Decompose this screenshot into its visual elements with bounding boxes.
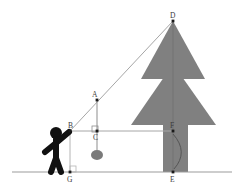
label-E: E [170, 175, 175, 184]
label-C: C [93, 133, 98, 142]
observer-body [45, 132, 69, 172]
point-marker-B [69, 130, 72, 133]
diagram-canvas: D A B C F G E [0, 0, 247, 194]
tree-graphic [131, 21, 216, 172]
point-marker-E [172, 171, 175, 174]
point-marker-D [172, 20, 175, 23]
label-A: A [92, 90, 98, 99]
point-marker-F [172, 130, 175, 133]
label-G: G [67, 175, 73, 184]
point-marker-A [96, 99, 99, 102]
observer-figure [45, 127, 69, 172]
tree-height-diagram: D A B C F G E [0, 0, 247, 194]
label-D: D [170, 11, 176, 20]
label-B: B [68, 121, 73, 130]
plumb-bob-weight [91, 150, 103, 160]
point-marker-C [96, 130, 99, 133]
point-marker-G [69, 171, 72, 174]
tree-trunk [163, 125, 188, 172]
label-F: F [170, 121, 174, 130]
